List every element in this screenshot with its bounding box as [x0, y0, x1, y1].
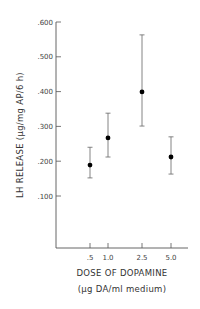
x-tick-label: 2.5 — [136, 254, 147, 262]
y-tick-label: .600 — [37, 19, 53, 27]
x-tick-label: .5 — [87, 254, 94, 262]
x-axis-title: DOSE OF DOPAMINE — [77, 268, 168, 278]
y-tick-label: .200 — [37, 158, 53, 166]
x-axis-units: (µg DA/ml medium) — [78, 284, 167, 294]
y-tick-label: .300 — [37, 123, 53, 131]
y-tick-label: .400 — [37, 88, 53, 96]
data-point-group — [106, 113, 111, 157]
data-points — [88, 35, 174, 178]
x-tick-label: 1.0 — [102, 254, 113, 262]
data-marker — [106, 135, 111, 140]
y-tick-label: .500 — [37, 53, 53, 61]
dose-response-chart: .100.200.300.400.500.600 .51.02.55.0 LH … — [0, 0, 200, 309]
y-axis: .100.200.300.400.500.600 — [37, 19, 61, 249]
data-marker — [140, 90, 145, 95]
data-marker — [88, 163, 93, 168]
x-axis: .51.02.55.0 — [56, 243, 188, 262]
y-axis-title: LH RELEASE (µg/mg AP/6 h) — [15, 72, 25, 198]
data-point-group — [169, 137, 174, 174]
data-point-group — [140, 35, 145, 126]
x-tick-label: 5.0 — [165, 254, 176, 262]
data-point-group — [88, 147, 93, 178]
data-marker — [169, 155, 174, 160]
y-tick-label: .100 — [37, 193, 53, 201]
